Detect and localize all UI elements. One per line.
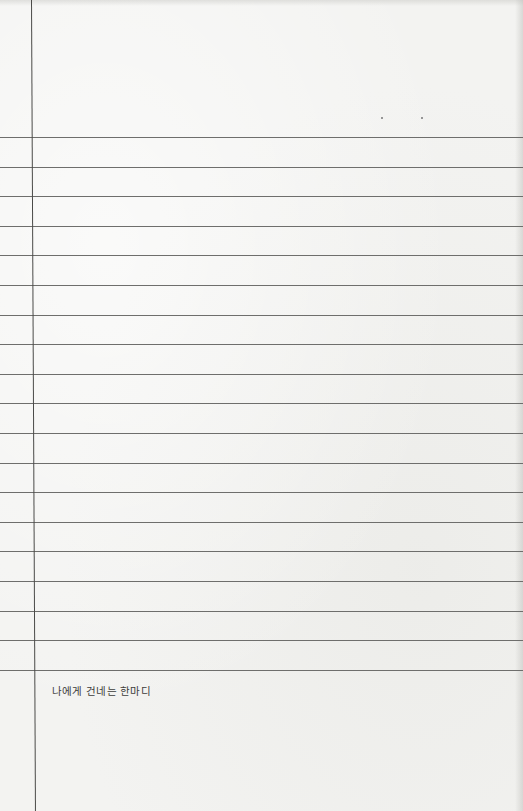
ruled-line	[0, 551, 523, 552]
ruled-line	[0, 640, 523, 641]
page-edge-shadow	[515, 0, 523, 811]
ruled-line	[0, 315, 523, 316]
ruled-line	[0, 374, 523, 375]
ruled-line	[0, 433, 523, 434]
margin-line	[31, 0, 36, 811]
ruled-line	[0, 167, 523, 168]
ruled-line	[0, 196, 523, 197]
dot-mark	[381, 117, 383, 119]
ruled-line	[0, 611, 523, 612]
ruled-line	[0, 285, 523, 286]
dot-mark	[421, 117, 423, 119]
ruled-line	[0, 492, 523, 493]
caption-text: 나에게 건네는 한마디	[52, 683, 151, 698]
ruled-line	[0, 463, 523, 464]
ruled-line	[0, 226, 523, 227]
ruled-line	[0, 344, 523, 345]
ruled-line	[0, 137, 523, 138]
ruled-line	[0, 522, 523, 523]
ruled-line	[0, 670, 523, 671]
ruled-line	[0, 255, 523, 256]
ruled-line	[0, 581, 523, 582]
page-top-shadow	[0, 0, 523, 6]
ruled-line	[0, 403, 523, 404]
notebook-page: 나에게 건네는 한마디	[0, 0, 523, 811]
